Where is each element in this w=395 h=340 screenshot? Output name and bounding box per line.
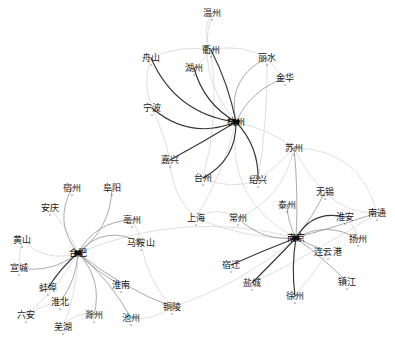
graph-edge (258, 148, 294, 180)
graph-edge (78, 188, 112, 253)
graph-edge (196, 122, 236, 218)
graph-node-marker (376, 219, 378, 221)
graph-node-marker (140, 249, 142, 251)
graph-hub-marker (75, 251, 82, 256)
graph-edge (267, 58, 285, 78)
graph-hub-marker (293, 236, 300, 241)
graph-node-marker (251, 289, 253, 291)
graph-node-marker (151, 114, 153, 116)
graph-edge (131, 307, 172, 319)
graph-node-marker (357, 245, 359, 247)
graph-edge (152, 108, 236, 129)
graph-edge (258, 58, 267, 180)
graph-node-marker (21, 246, 23, 248)
graph-edge (296, 238, 347, 282)
graph-edge (78, 235, 141, 253)
graph-edge (64, 188, 78, 253)
graph-edge (60, 253, 78, 302)
graph-edge (196, 211, 238, 218)
graph-edge (211, 48, 267, 58)
graph-node-marker (18, 274, 20, 276)
graph-edge (141, 243, 172, 307)
graph-node-marker (324, 198, 326, 200)
graph-edge (294, 148, 377, 213)
graph-edge (19, 240, 22, 268)
graph-node-marker (202, 184, 204, 186)
graph-edge (151, 48, 211, 58)
graph-edge (293, 238, 296, 296)
graph-edge (235, 122, 296, 238)
graph-hub-marker (233, 120, 240, 125)
graph-edge (325, 192, 377, 213)
graph-node-marker (294, 302, 296, 304)
graph-edge (231, 238, 296, 265)
graph-edge (294, 148, 297, 238)
graph-edge (26, 302, 60, 315)
graph-node-marker (93, 321, 95, 323)
graph-edge (287, 205, 296, 238)
graph-edge (203, 178, 258, 185)
graph-node-marker (327, 258, 329, 260)
graph-node-marker (210, 56, 212, 58)
graph-node-marker (171, 313, 173, 315)
graph-edge (236, 78, 285, 122)
graph-edge (252, 238, 296, 283)
graph-edge (22, 240, 78, 256)
graph-node-marker (131, 226, 133, 228)
graph-edges-layer (0, 0, 395, 340)
graph-node-marker (47, 294, 49, 296)
graph-edge (172, 238, 296, 307)
graph-node-marker (130, 324, 132, 326)
graph-edge (196, 218, 296, 238)
graph-node-marker (344, 223, 346, 225)
graph-node-marker (257, 186, 259, 188)
graph-node-marker (59, 308, 61, 310)
graph-node-marker (169, 166, 171, 168)
network-graph-figure: 温州衢州丽水舟山湖州金华宁波杭州嘉兴台州绍兴苏州无锡泰州南通淮安扬州南京连云港镇… (0, 0, 395, 340)
graph-edge (63, 314, 94, 327)
graph-edge (294, 148, 325, 192)
graph-node-marker (193, 74, 195, 76)
graph-edge (78, 226, 296, 253)
graph-node-marker (266, 64, 268, 66)
graph-node-marker (293, 154, 295, 156)
graph-edge (170, 160, 196, 218)
graph-node-marker (237, 224, 239, 226)
graph-node-marker (286, 211, 288, 213)
graph-node-marker (71, 194, 73, 196)
graph-node-marker (120, 291, 122, 293)
graph-node-marker (62, 333, 64, 335)
graph-node-marker (346, 288, 348, 290)
graph-node-marker (25, 321, 27, 323)
graph-edge (238, 148, 294, 218)
graph-edge (194, 50, 211, 68)
graph-edge (203, 122, 236, 178)
graph-edge (151, 58, 236, 122)
graph-edge (236, 122, 258, 180)
graph-edge (211, 50, 236, 122)
graph-node-marker (195, 224, 197, 226)
graph-node-marker (284, 84, 286, 86)
graph-edge (78, 253, 172, 307)
graph-edge (152, 108, 170, 160)
graph-node-marker (150, 64, 152, 66)
graph-edge (207, 13, 236, 122)
graph-node-marker (230, 271, 232, 273)
graph-edge (48, 253, 78, 288)
graph-node-marker (211, 19, 213, 21)
graph-node-marker (49, 214, 51, 216)
graph-node-marker (111, 194, 113, 196)
graph-edge (296, 213, 377, 238)
